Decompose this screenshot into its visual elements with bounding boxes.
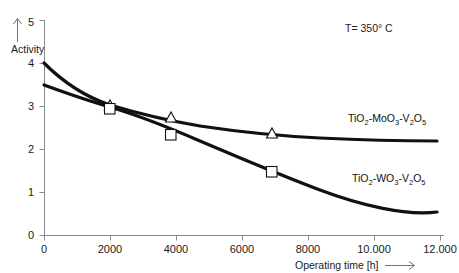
y-tick-label-5: 5 xyxy=(28,16,34,28)
x-tick-label-0: 0 xyxy=(41,243,47,255)
x-tick-label-6000: 6000 xyxy=(230,243,254,255)
marker-square-2000 xyxy=(105,104,116,115)
x-tick-label-12000: 12.000 xyxy=(423,243,457,255)
series-curve-tio2-wo3-v2o5 xyxy=(44,85,437,213)
series-label-tio2-wo3-v2o5: TiO2-WO3-V2O5 xyxy=(352,172,425,187)
y-tick-label-3: 3 xyxy=(28,100,34,112)
y-tick-label-2: 2 xyxy=(28,143,34,155)
label-part-wo: -WO xyxy=(373,172,395,184)
label-sub-5: 5 xyxy=(422,118,426,127)
x-axis-title: Operating time [h] xyxy=(295,259,379,271)
temperature-annotation: T= 350° C xyxy=(345,22,393,34)
label-part-o: O xyxy=(414,112,422,124)
marker-square-7000 xyxy=(267,167,278,178)
y-tick-label-0: 0 xyxy=(28,229,34,241)
y-axis-title: Activity xyxy=(11,43,45,55)
marker-square-3700 xyxy=(166,130,177,141)
label-part-v: -V xyxy=(399,112,410,124)
label-part-v: -V xyxy=(398,172,409,184)
y-axis-arrow-icon xyxy=(14,19,22,43)
x-tick-label-2000: 2000 xyxy=(98,243,122,255)
series-curve-tio2-moo3-v2o5 xyxy=(44,63,437,141)
x-tick-label-10000: 10.000 xyxy=(357,243,391,255)
x-tick-label-4000: 4000 xyxy=(164,243,188,255)
x-tick-label-8000: 8000 xyxy=(296,243,320,255)
label-part-moo: -MoO xyxy=(369,112,395,124)
label-part-tio: TiO xyxy=(352,172,369,184)
label-part-o: O xyxy=(413,172,421,184)
x-axis-arrow-icon xyxy=(385,262,415,270)
label-part-tio: TiO xyxy=(348,112,365,124)
activity-vs-operating-time-chart: 0 1 2 3 4 5 0 2000 4000 6000 8000 10.000… xyxy=(0,0,459,273)
chart-page: 0 1 2 3 4 5 0 2000 4000 6000 8000 10.000… xyxy=(0,0,459,273)
label-sub-5: 5 xyxy=(421,178,425,187)
y-tick-label-1: 1 xyxy=(28,186,34,198)
x-axis-ticks xyxy=(45,236,441,241)
marker-triangle-3700 xyxy=(166,112,177,122)
series-label-tio2-moo3-v2o5: TiO2-MoO3-V2O5 xyxy=(348,112,426,127)
y-tick-label-4: 4 xyxy=(28,57,34,69)
